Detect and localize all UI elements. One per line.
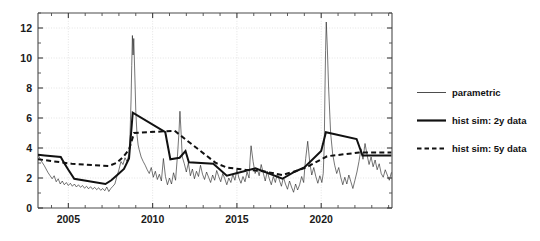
x-tick-label-2005: 2005 bbox=[57, 213, 81, 225]
volatility-line-chart: 2005201020152020 024681012 parametric hi… bbox=[0, 0, 540, 241]
x-tick-label-2010: 2010 bbox=[141, 213, 165, 225]
y-tick-label-4: 4 bbox=[26, 142, 32, 154]
legend-label-hist-sim-5y: hist sim: 5y data bbox=[452, 143, 527, 154]
chart-figure: 2005201020152020 024681012 parametric hi… bbox=[0, 0, 540, 241]
y-tick-label-8: 8 bbox=[26, 82, 32, 94]
legend-label-parametric: parametric bbox=[452, 87, 501, 98]
x-tick-label-2015: 2015 bbox=[225, 213, 249, 225]
y-tick-label-6: 6 bbox=[26, 112, 32, 124]
legend-label-hist-sim-2y: hist sim: 2y data bbox=[452, 115, 527, 126]
y-tick-label-10: 10 bbox=[20, 52, 32, 64]
y-tick-label-2: 2 bbox=[26, 172, 32, 184]
y-tick-label-0: 0 bbox=[26, 202, 32, 214]
y-tick-label-12: 12 bbox=[20, 22, 32, 34]
x-tick-label-2020: 2020 bbox=[310, 213, 334, 225]
